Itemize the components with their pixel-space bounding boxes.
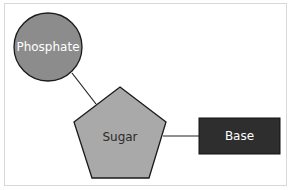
phosphate-label: Phosphate [16, 40, 79, 54]
edge-phosphate-sugar [72, 73, 96, 104]
sugar-node: Sugar [74, 87, 166, 178]
phosphate-node: Phosphate [14, 13, 82, 81]
base-label: Base [225, 129, 254, 143]
sugar-label: Sugar [102, 130, 137, 144]
base-node: Base [199, 118, 280, 154]
nucleotide-diagram: Phosphate Sugar Base [0, 0, 292, 190]
